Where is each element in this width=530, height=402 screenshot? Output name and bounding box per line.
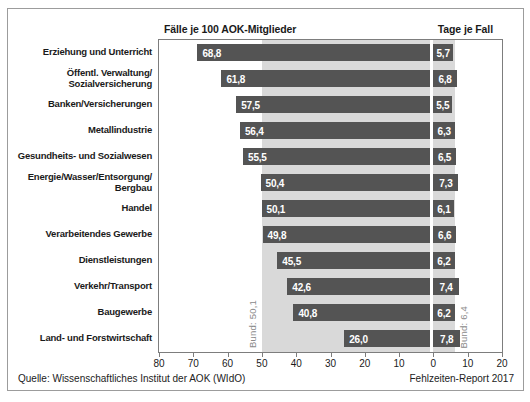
category-label: Metallindustrie xyxy=(8,117,152,143)
axis-tick-label: 40 xyxy=(284,358,308,369)
right-axis-title: Tage je Fall xyxy=(438,23,493,35)
tage-bar: 6,1 xyxy=(433,200,454,217)
tage-bar: 5,7 xyxy=(433,44,453,61)
tage-bar: 7,8 xyxy=(433,330,460,347)
report-note: Fehlzeiten-Report 2017 xyxy=(409,373,514,384)
tage-bar: 7,3 xyxy=(433,174,458,191)
axis-tick-label: 80 xyxy=(147,358,171,369)
tage-value-label: 6,5 xyxy=(433,151,455,162)
faelle-bar: 42,6 xyxy=(287,278,433,295)
axis-tick xyxy=(193,353,194,357)
axis-tick-label: 50 xyxy=(250,358,274,369)
category-label: Dienstleistungen xyxy=(8,247,152,273)
category-label: Banken/Versicherungen xyxy=(8,91,152,117)
tage-bar: 6,8 xyxy=(433,70,456,87)
category-label: Baugewerbe xyxy=(8,299,152,325)
category-label: Handel xyxy=(8,195,152,221)
tage-bar: 6,6 xyxy=(433,226,456,243)
source-note: Quelle: Wissenschaftliches Institut der … xyxy=(18,373,245,384)
tage-value-label: 6,3 xyxy=(433,125,455,136)
axis-tick xyxy=(365,353,366,357)
tage-bar: 6,5 xyxy=(433,148,455,165)
axis-tick-label: 60 xyxy=(216,358,240,369)
faelle-bar: 50,4 xyxy=(261,174,434,191)
tage-bar: 7,4 xyxy=(433,278,458,295)
left-axis-title: Fälle je 100 AOK-Mitglieder xyxy=(164,23,296,35)
faelle-value-label: 50,4 xyxy=(266,177,285,188)
faelle-bar: 26,0 xyxy=(344,330,433,347)
category-label: Energie/Wasser/Entsorgung/ Bergbau xyxy=(8,169,152,195)
category-label: Verarbeitendes Gewerbe xyxy=(8,221,152,247)
axis-tick-label: 20 xyxy=(490,358,514,369)
faelle-value-label: 26,0 xyxy=(349,333,368,344)
category-label: Verkehr/Transport xyxy=(8,273,152,299)
faelle-bar: 49,8 xyxy=(263,226,434,243)
axis-tick xyxy=(399,353,400,357)
bund-left-label: Bund: 50,1 xyxy=(247,300,258,348)
faelle-value-label: 40,8 xyxy=(298,307,317,318)
tage-value-label: 6,6 xyxy=(433,229,456,240)
axis-tick xyxy=(228,353,229,357)
faelle-value-label: 42,6 xyxy=(292,281,311,292)
faelle-bar: 57,5 xyxy=(236,96,433,113)
axis-tick xyxy=(502,353,503,357)
zero-axis-line xyxy=(430,40,433,352)
faelle-value-label: 45,5 xyxy=(282,255,301,266)
axis-tick xyxy=(468,353,469,357)
category-label: Erziehung und Unterricht xyxy=(8,39,152,65)
axis-tick xyxy=(433,353,434,357)
tage-value-label: 7,4 xyxy=(433,281,458,292)
faelle-bar: 68,8 xyxy=(197,44,433,61)
axis-tick xyxy=(159,353,160,357)
tage-value-label: 7,8 xyxy=(433,333,460,344)
category-label: Öffentl. Verwaltung/ Sozialversicherung xyxy=(8,65,152,91)
axis-tick-label: 10 xyxy=(387,358,411,369)
figure-frame: Fälle je 100 AOK-Mitglieder Tage je Fall… xyxy=(7,8,524,391)
axis-tick-label: 0 xyxy=(421,358,445,369)
axis-tick-label: 20 xyxy=(353,358,377,369)
axis-tick xyxy=(296,353,297,357)
faelle-bar: 45,5 xyxy=(277,252,433,269)
tage-bar: 6,2 xyxy=(433,252,454,269)
tage-bar: 6,3 xyxy=(433,122,455,139)
faelle-bar: 56,4 xyxy=(240,122,433,139)
tage-value-label: 6,1 xyxy=(433,203,454,214)
axis-tick-label: 10 xyxy=(456,358,480,369)
bund-right-label: Bund: 6,4 xyxy=(458,306,469,348)
faelle-bar: 40,8 xyxy=(293,304,433,321)
faelle-value-label: 49,8 xyxy=(268,229,287,240)
plot-area: 68,85,761,86,857,55,556,46,355,56,550,47… xyxy=(158,39,503,353)
tage-value-label: 6,2 xyxy=(433,307,454,318)
tage-bar: 6,2 xyxy=(433,304,454,321)
axis-tick-label: 70 xyxy=(181,358,205,369)
faelle-bar: 50,1 xyxy=(262,200,434,217)
faelle-value-label: 57,5 xyxy=(241,99,260,110)
tage-value-label: 5,7 xyxy=(433,47,453,58)
tage-bar: 5,5 xyxy=(433,96,452,113)
tage-value-label: 7,3 xyxy=(433,177,458,188)
axis-tick xyxy=(331,353,332,357)
faelle-value-label: 68,8 xyxy=(202,47,221,58)
faelle-bar: 61,8 xyxy=(221,70,433,87)
axis-tick-label: 30 xyxy=(319,358,343,369)
axis-tick xyxy=(262,353,263,357)
tage-value-label: 5,5 xyxy=(433,99,452,110)
faelle-value-label: 50,1 xyxy=(267,203,286,214)
faelle-value-label: 61,8 xyxy=(226,73,245,84)
faelle-value-label: 55,5 xyxy=(248,151,267,162)
faelle-value-label: 56,4 xyxy=(245,125,264,136)
category-label: Gesundheits- und Sozialwesen xyxy=(8,143,152,169)
tage-value-label: 6,2 xyxy=(433,255,454,266)
faelle-bar: 55,5 xyxy=(243,148,433,165)
tage-value-label: 6,8 xyxy=(433,73,456,84)
category-label: Land- und Forstwirtschaft xyxy=(8,325,152,351)
